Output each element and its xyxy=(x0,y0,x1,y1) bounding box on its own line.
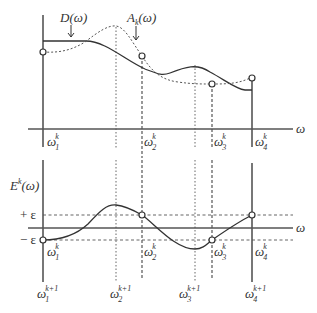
label-approx: Ak(ω) xyxy=(126,10,156,27)
top-node-label-2: ω2k xyxy=(144,132,156,152)
arrow-down-icon xyxy=(133,26,139,40)
bottom-y-label: Ek(ω) xyxy=(9,177,39,193)
bottom-x-label: ω xyxy=(296,220,305,235)
approx-response-curve xyxy=(43,26,250,84)
minus-epsilon-label: − ε xyxy=(20,232,37,247)
top-point-w3 xyxy=(209,81,215,87)
bottom-node-k-label-3: ω3k xyxy=(214,242,226,262)
bottom-point-w2 xyxy=(139,212,145,218)
top-node-label-4: ω4k xyxy=(255,132,267,152)
top-node-label-3: ω3k xyxy=(214,132,226,152)
top-point-w4 xyxy=(249,75,255,81)
top-point-w1 xyxy=(40,49,46,55)
plus-epsilon-label: + ε xyxy=(20,207,37,222)
top-x-label: ω xyxy=(296,121,305,136)
bottom-node-k1-label-4: ω4k+1 xyxy=(245,284,266,304)
label-desired: D(ω) xyxy=(59,10,87,25)
bottom-node-k1-label-2: ω2k+1 xyxy=(110,284,131,304)
desired-response-curve xyxy=(43,41,252,90)
top-plot: D(ω) Ak(ω) ω ω1k ω2k ω3k ω4k xyxy=(28,10,305,158)
arrow-down-icon xyxy=(68,25,74,37)
bottom-node-k1-label-1: ω1k+1 xyxy=(37,284,58,304)
bottom-node-k1-label-3: ω3k+1 xyxy=(179,284,200,304)
bottom-point-w1 xyxy=(40,237,46,243)
bottom-node-k-label-1: ω1k xyxy=(47,242,59,262)
bottom-node-k-label-4: ω4k xyxy=(255,242,267,262)
bottom-point-w4 xyxy=(249,212,255,218)
remez-exchange-diagram: D(ω) Ak(ω) ω ω1k ω2k ω3k ω4k xyxy=(0,0,317,313)
top-node-label-1: ω1k xyxy=(47,132,59,152)
bottom-plot: Ek(ω) + ε − ε ω ω1k ω2k ω3k ω4k ω1k+1 ω2… xyxy=(9,160,305,304)
bottom-point-w3 xyxy=(209,237,215,243)
top-point-w2 xyxy=(139,53,145,59)
bottom-node-k-label-2: ω2k xyxy=(144,242,156,262)
error-curve xyxy=(43,205,252,249)
